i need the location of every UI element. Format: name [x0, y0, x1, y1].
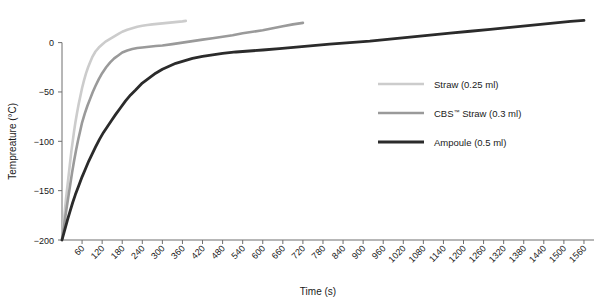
series-line-3 [62, 20, 584, 240]
x-tick-label: 540 [229, 243, 247, 261]
x-tick-label: 1020 [386, 243, 407, 264]
x-tick-label: 600 [249, 243, 267, 261]
series-group [62, 20, 584, 240]
y-tick-label: −50 [39, 87, 54, 97]
x-tick-label: 1560 [567, 243, 588, 264]
x-tick-label: 420 [189, 243, 207, 261]
x-tick-label: 60 [72, 243, 86, 257]
legend-label-2: CBS™ Straw (0.3 ml) [434, 108, 521, 119]
temperature-vs-time-chart: 0−50−100−150−200601201802403003604204805… [0, 0, 604, 302]
x-tick-label: 480 [209, 243, 227, 261]
x-tick-label: 900 [350, 243, 368, 261]
x-tick-label: 1080 [407, 243, 428, 264]
x-tick-label: 960 [370, 243, 388, 261]
legend-label-3: Ampoule (0.5 ml) [434, 137, 506, 148]
x-tick-label: 1320 [487, 243, 508, 264]
x-tick-label: 1380 [507, 243, 528, 264]
x-tick-label: 780 [310, 243, 328, 261]
x-tick-label: 360 [169, 243, 187, 261]
y-tick-label: −200 [34, 236, 54, 246]
legend-label-1: Straw (0.25 ml) [434, 79, 498, 90]
y-tick-label: 0 [49, 38, 54, 48]
x-tick-label: 840 [330, 243, 348, 261]
axes-group: 0−50−100−150−200601201802403003604204805… [34, 38, 594, 264]
series-line-2 [62, 23, 303, 240]
y-tick-label: −150 [34, 186, 54, 196]
x-tick-label: 1200 [447, 243, 468, 264]
x-tick-label: 1260 [467, 243, 488, 264]
x-tick-label: 180 [109, 243, 127, 261]
x-tick-label: 1440 [527, 243, 548, 264]
x-tick-label: 1500 [547, 243, 568, 264]
x-tick-label: 1140 [427, 243, 448, 264]
y-tick-label: −100 [34, 137, 54, 147]
figure-container: 0−50−100−150−200601201802403003604204805… [0, 0, 604, 302]
x-tick-label: 240 [129, 243, 147, 261]
y-axis-title: Tempreature (°C) [7, 103, 18, 180]
x-axis-title: Time (s) [300, 286, 336, 297]
axis-titles-group: Time (s)Tempreature (°C) [7, 103, 336, 297]
x-tick-label: 660 [270, 243, 288, 261]
x-tick-label: 120 [89, 243, 107, 261]
legend-group: Straw (0.25 ml)CBS™ Straw (0.3 ml)Ampoul… [378, 79, 521, 148]
x-tick-label: 300 [149, 243, 167, 261]
x-tick-label: 720 [290, 243, 308, 261]
